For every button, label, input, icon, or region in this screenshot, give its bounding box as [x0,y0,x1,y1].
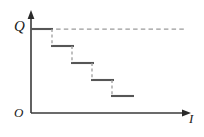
y-axis-label: Q [14,19,25,34]
plot-canvas [0,0,204,137]
step-chart-figure: Q O I [0,0,204,137]
axes-group [28,10,191,116]
x-axis-label: I [189,112,193,125]
y-axis-arrow-icon [28,10,35,19]
origin-label: O [14,106,23,119]
staircase-treads-group [31,29,134,96]
